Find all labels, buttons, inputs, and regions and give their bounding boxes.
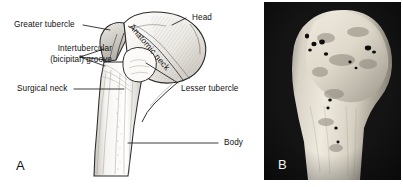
panel-letter-b: B [278, 157, 287, 172]
label-lesser-tubercle: Lesser tubercle [181, 84, 238, 95]
label-intertubercular-line1: Intertubercular [12, 44, 112, 55]
panel-b-photograph: B [264, 2, 401, 180]
label-greater-tubercle: Greater tubercle [14, 20, 75, 31]
panel-a-line-drawing: Anatomic neck Greater tubercle Intertube… [0, 0, 258, 187]
label-head: Head [192, 13, 212, 24]
figure-humerus: Anatomic neck Greater tubercle Intertube… [0, 0, 403, 187]
humerus-photograph [264, 2, 401, 180]
label-bicipital-groove-line2: (bicipital) groove [2, 55, 112, 66]
label-surgical-neck: Surgical neck [17, 84, 67, 95]
head-to-shaft-margin [142, 82, 178, 122]
panel-letter-a: A [16, 158, 25, 173]
label-body: Body [224, 138, 243, 149]
